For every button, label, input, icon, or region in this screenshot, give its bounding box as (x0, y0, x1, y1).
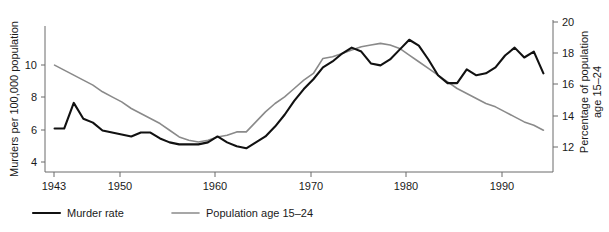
x-tick-label-1980: 1980 (394, 180, 418, 192)
x-tick-label-1990: 1990 (490, 180, 514, 192)
left-axis-tick-labels: 10 8 6 4 (25, 59, 37, 168)
left-tick-label-10: 10 (25, 59, 37, 71)
right-axis-ticks (553, 22, 558, 147)
x-axis-tick-labels: 1943 1950 1960 1970 1980 1990 (42, 180, 514, 192)
series-line-murder-rate (55, 40, 544, 149)
right-tick-label-14: 14 (562, 110, 574, 122)
right-axis-tick-labels: 20 18 16 14 12 (562, 16, 574, 153)
right-tick-label-18: 18 (562, 47, 574, 59)
left-tick-label-4: 4 (31, 156, 37, 168)
right-axis-title-line2: age 15–24 (591, 66, 603, 118)
x-axis-ticks (54, 172, 502, 177)
chart-legend: Murder rate Population age 15–24 (33, 207, 313, 219)
x-tick-label-1943: 1943 (42, 180, 66, 192)
series-line-population (55, 43, 544, 142)
left-tick-label-6: 6 (31, 124, 37, 136)
left-axis-ticks (41, 65, 45, 162)
x-tick-label-1950: 1950 (108, 180, 132, 192)
left-axis-title: Murders per 100,000 population (8, 21, 20, 177)
left-tick-label-8: 8 (31, 91, 37, 103)
right-tick-label-16: 16 (562, 78, 574, 90)
legend-label-murder-rate: Murder rate (67, 207, 124, 219)
right-tick-label-20: 20 (562, 16, 574, 28)
right-axis-title-line1: Percentage of population (578, 31, 590, 153)
line-chart-figure: 10 8 6 4 20 18 16 14 12 (0, 0, 609, 232)
right-tick-label-12: 12 (562, 141, 574, 153)
x-tick-label-1970: 1970 (299, 180, 323, 192)
legend-label-population: Population age 15–24 (206, 207, 313, 219)
chart-container: 10 8 6 4 20 18 16 14 12 (0, 0, 609, 232)
x-tick-label-1960: 1960 (203, 180, 227, 192)
